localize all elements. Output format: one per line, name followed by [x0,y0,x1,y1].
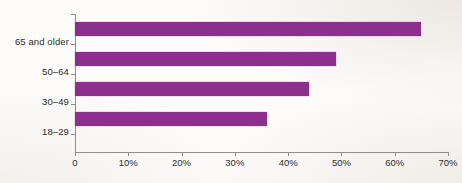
x-axis-tick [448,152,449,156]
x-axis-tick [395,152,396,156]
y-axis-labels: 65 and older 50–64 30–49 18–29 [0,14,69,152]
y-axis-tick-3 [71,104,75,105]
y-axis-label-0: 65 and older [15,36,69,47]
bar-row [75,112,267,126]
y-axis-tick-4 [71,134,75,135]
x-axis-tick [75,152,76,156]
x-axis-tick-label: 70% [438,157,457,168]
bar-chart: 65 and older 50–64 30–49 18–29 [0,0,462,183]
x-axis-tick [182,152,183,156]
bar-18-29 [75,112,267,126]
x-axis-tick-label: 50% [332,157,351,168]
y-axis-tick-2 [71,74,75,75]
x-axis-tick [288,152,289,156]
bar-row [75,52,336,66]
bar-30-49 [75,82,309,96]
bar-row [75,82,309,96]
bar-50-64 [75,52,336,66]
x-axis-tick-label: 40% [279,157,298,168]
x-axis-tick [235,152,236,156]
x-axis-tick [128,152,129,156]
y-axis-label-1: 50–64 [42,66,69,77]
y-axis-tick-0 [71,14,75,15]
y-axis-label-2: 30–49 [42,96,69,107]
x-axis-line [75,152,448,153]
x-axis-tick-label: 30% [225,157,244,168]
x-axis-tick-label: 60% [385,157,404,168]
bar-row [75,22,421,36]
x-axis-tick-label: 20% [172,157,191,168]
y-axis-tick-1 [71,44,75,45]
y-axis-label-3: 18–29 [42,126,69,137]
x-axis-tick [341,152,342,156]
plot-area [75,14,448,152]
x-axis-labels: 0 10% 20% 30% 40% 50% 60% 70% [75,157,448,171]
bar-65-and-older [75,22,421,36]
x-axis-tick-label: 0 [72,157,77,168]
x-axis-tick-label: 10% [119,157,138,168]
